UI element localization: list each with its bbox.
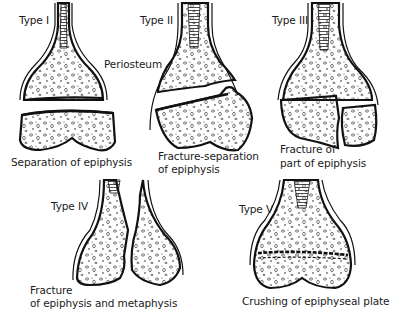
type-4-caption-line2: of epiphysis and metaphysis	[30, 297, 177, 309]
type-2-label: Type II	[140, 14, 173, 26]
type-3-caption-line1: Fracture of	[280, 143, 335, 155]
type-2-caption-line1: Fracture-separation	[158, 150, 259, 162]
periosteum-callout: Periosteum	[104, 58, 162, 70]
type-5-label: Type V	[239, 203, 273, 215]
type-3-caption-line2: part of epiphysis	[280, 157, 366, 169]
type-2-caption-line2: of epiphysis	[158, 163, 220, 175]
panel-type-4	[73, 180, 183, 285]
type-4-caption-line1: Fracture	[30, 284, 72, 296]
type-3-label: Type III	[272, 14, 308, 26]
type-5-caption: Crushing of epiphyseal plate	[242, 295, 389, 307]
panel-type-5	[250, 180, 355, 288]
type-1-label: Type I	[19, 14, 49, 26]
type-1-caption: Separation of epiphysis	[11, 156, 132, 168]
type-4-label: Type IV	[51, 200, 88, 212]
